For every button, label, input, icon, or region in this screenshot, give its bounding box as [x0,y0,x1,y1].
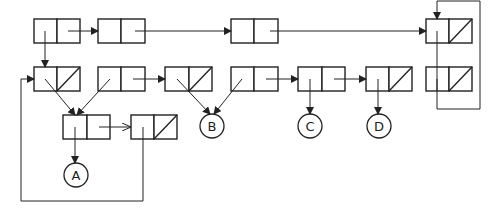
arrow-r2c7-loop [437,1,480,109]
cons-cell-r2c6 [366,67,412,91]
svg-text:B: B [208,119,217,134]
arrow-r2c2-car [77,79,110,115]
atom-d: D [367,114,391,138]
cons-cell-r3c2 [131,115,177,139]
cons-cell-r2c1 [34,67,80,91]
arrow-r2c4-car [214,79,242,114]
cons-cell-r2c7 [426,67,472,91]
svg-text:D: D [374,119,384,134]
cons-cell-r1c4 [426,19,472,43]
cons-cell-r2c3 [165,67,212,91]
svg-text:A: A [72,168,81,183]
svg-text:C: C [305,119,314,134]
box-pointer-diagram: A B C D [0,0,499,208]
atom-c: C [298,114,322,138]
atom-b: B [200,114,224,138]
atom-a: A [64,163,88,187]
